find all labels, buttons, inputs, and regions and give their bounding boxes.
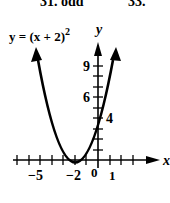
x-tick-label-neg2: −2 <box>66 168 81 183</box>
y-tick-label-9: 9 <box>83 59 90 74</box>
y-axis-label: y <box>94 22 103 37</box>
parabola-graph: −5 −2 0 1 9 6 4 x y y = (x + 2)2 <box>0 0 170 203</box>
y-tick-label-4: 4 <box>106 111 113 126</box>
y-tick-label-6: 6 <box>83 90 90 105</box>
curve-left-arrow-icon <box>31 47 42 62</box>
x-axis-label: x <box>162 153 170 168</box>
x-tick-label-neg5: −5 <box>28 168 43 183</box>
x-tick-label-0: 0 <box>91 165 98 180</box>
y-axis <box>93 42 103 168</box>
x-axis-arrow-icon <box>146 156 160 164</box>
x-tick-label-1: 1 <box>109 168 116 183</box>
curve-right-arrow-icon <box>110 47 121 61</box>
equation-label: y = (x + 2)2 <box>9 26 70 44</box>
x-axis <box>13 155 160 165</box>
y-axis-arrow-icon <box>94 42 102 56</box>
